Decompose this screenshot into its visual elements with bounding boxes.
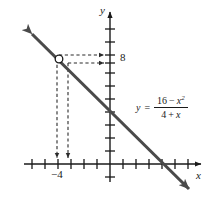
equation-numerator: 16−x2 (154, 94, 188, 107)
function-graph-figure: y x 8 −4 y = 16−x2 4+x (0, 0, 212, 210)
equation-lhs: y (136, 102, 140, 113)
removable-discontinuity-hole (55, 55, 63, 63)
guide-lines (57, 55, 104, 158)
denominator-operator: + (168, 109, 174, 120)
y-axis (105, 12, 115, 182)
equation-fraction: 16−x2 4+x (154, 94, 188, 120)
y-axis-label: y (100, 5, 105, 16)
x-axis-label: x (196, 170, 201, 181)
equation-equals: = (144, 102, 150, 113)
denominator-variable: x (176, 109, 180, 120)
numerator-exponent: 2 (181, 94, 185, 102)
x-tick-label-minus-4: −4 (51, 169, 63, 180)
y-tick-label-8: 8 (120, 52, 126, 63)
numerator-operator: − (169, 95, 175, 106)
equation-label: y = 16−x2 4+x (136, 94, 188, 120)
numerator-constant: 16 (157, 95, 167, 106)
equation-denominator: 4+x (158, 108, 183, 120)
denominator-constant: 4 (161, 109, 166, 120)
